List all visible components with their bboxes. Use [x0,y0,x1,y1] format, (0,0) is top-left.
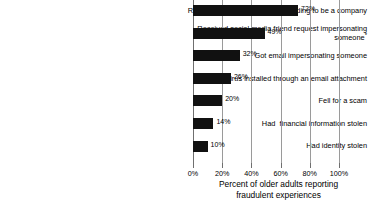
bar-row: 10% [193,136,339,159]
bar-row: 49% [193,23,339,46]
tick-label: 60% [273,169,287,178]
tick-mark [281,163,282,168]
bar-row: 20% [193,90,339,113]
x-axis-title: Percent of older adults reporting fraudu… [186,179,371,201]
gridline-100 [339,0,340,163]
bar-value-label: 14% [216,116,230,127]
tick-mark [251,163,252,168]
bar [193,50,240,61]
bar-value-label: 72% [301,3,315,14]
tick-mark [339,163,340,168]
tick-label: 20% [215,169,229,178]
tick-mark [222,163,223,168]
bar [193,141,208,152]
bar-chart: Received fraudulent email pretending to … [0,0,371,206]
bar-row: 26% [193,68,339,91]
bar [193,5,298,16]
bar-row: 32% [193,45,339,68]
tick-mark [310,163,311,168]
bar-value-label: 26% [234,71,248,82]
bar [193,118,213,129]
x-axis-title-line-2: fraudulent experiences [186,190,371,201]
bar-value-label: 10% [211,139,225,150]
bar-value-label: 49% [268,26,282,37]
bar-value-label: 20% [225,93,239,104]
bar-row: 72% [193,0,339,23]
x-axis-title-line-1: Percent of older adults reporting [219,179,338,189]
bar [193,28,265,39]
bar-value-label: 32% [243,48,257,59]
plot-area: 72%49%32%26%20%14%10% [193,0,339,163]
tick-label: 80% [303,169,317,178]
footnote-marker: * [365,32,367,38]
bar [193,73,231,84]
bar-row: 14% [193,113,339,136]
tick-label: 100% [330,169,348,178]
tick-label: 0% [188,169,198,178]
tick-mark [193,163,194,168]
tick-label: 40% [244,169,258,178]
bar [193,95,222,106]
